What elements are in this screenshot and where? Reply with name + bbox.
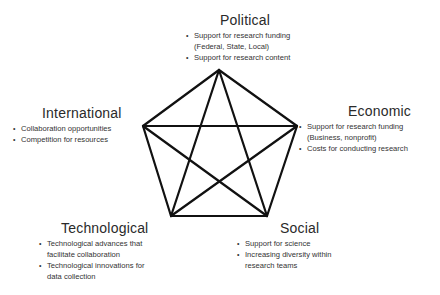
bullet-list: •Technological advances that facilitate …: [38, 238, 198, 282]
edge-political-economic: [219, 70, 297, 126]
bullet-list: •Collaboration opportunities •Competitio…: [12, 123, 152, 145]
pest-diagram: Political •Support for research funding …: [0, 0, 440, 295]
bullet-icon: •: [237, 249, 239, 260]
node-international: International •Collaboration opportuniti…: [12, 105, 152, 145]
bullet-icon: •: [299, 121, 301, 132]
list-item-continuation: research teams: [236, 260, 396, 271]
bullet-icon: •: [13, 134, 15, 145]
list-item: •Support for research content: [185, 52, 325, 63]
node-title: Social: [236, 220, 396, 236]
bullet-list: •Support for research funding (Business,…: [298, 121, 440, 154]
list-item: •Costs for conducting research: [298, 143, 440, 154]
node-technological: Technological •Technological advances th…: [38, 220, 198, 282]
edge-political-international: [143, 70, 219, 126]
bullet-icon: •: [186, 30, 188, 41]
edge-economic-social: [267, 126, 297, 216]
bullet-list: •Support for science •Increasing diversi…: [236, 238, 396, 271]
node-title: Economic: [298, 103, 440, 119]
list-item: •Support for research funding: [298, 121, 440, 132]
bullet-icon: •: [299, 143, 301, 154]
list-item: •Support for science: [236, 238, 396, 249]
node-title: Technological: [38, 220, 198, 236]
node-social: Social •Support for science •Increasing …: [236, 220, 396, 271]
bullet-icon: •: [237, 238, 239, 249]
list-item: •Support for research funding: [185, 30, 325, 41]
edge-political-technological: [171, 70, 219, 216]
edge-economic-technological: [171, 126, 297, 216]
list-item-continuation: data collection: [38, 271, 198, 282]
edge-international-social: [143, 126, 267, 216]
list-item-continuation: facilitate collaboration: [38, 249, 198, 260]
node-political: Political •Support for research funding …: [185, 12, 325, 63]
node-title: International: [12, 105, 152, 121]
bullet-icon: •: [39, 238, 41, 249]
list-item: •Collaboration opportunities: [12, 123, 152, 134]
bullet-icon: •: [186, 52, 188, 63]
node-economic: Economic •Support for research funding (…: [298, 103, 440, 154]
bullet-icon: •: [39, 260, 41, 271]
list-item-continuation: (Federal, State, Local): [185, 41, 325, 52]
bullet-list: •Support for research funding (Federal, …: [185, 30, 325, 63]
node-title: Political: [185, 12, 325, 28]
bullet-icon: •: [13, 123, 15, 134]
edge-political-social: [219, 70, 267, 216]
list-item: •Technological advances that: [38, 238, 198, 249]
list-item: •Technological innovations for: [38, 260, 198, 271]
list-item: •Increasing diversity within: [236, 249, 396, 260]
list-item: •Competition for resources: [12, 134, 152, 145]
list-item-continuation: (Business, nonprofit): [298, 132, 440, 143]
